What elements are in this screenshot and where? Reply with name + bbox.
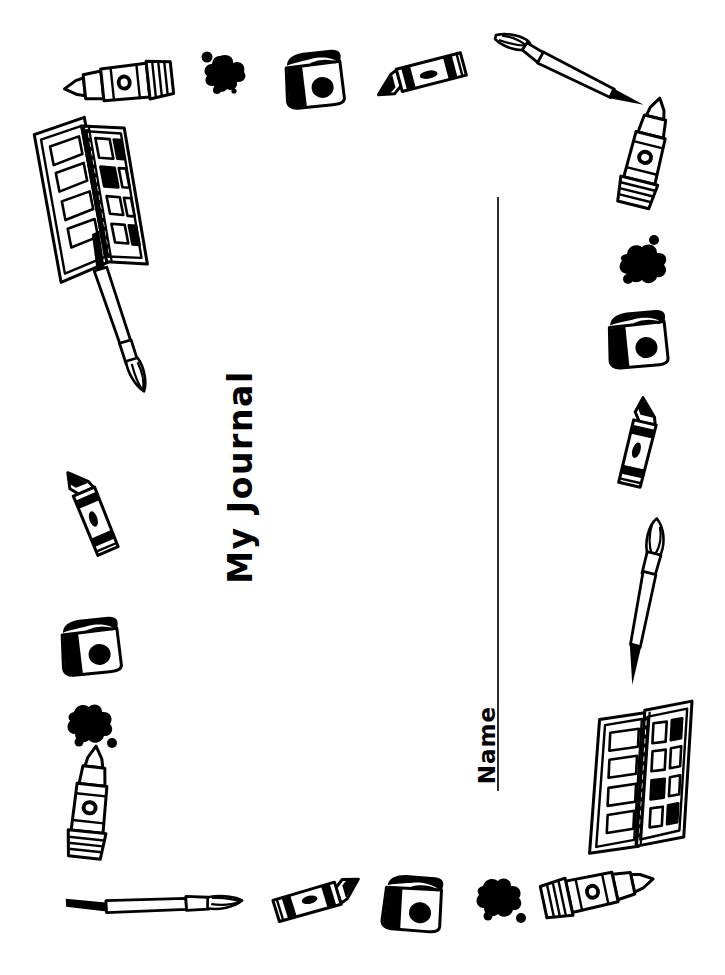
paint-jar-icon	[602, 306, 673, 371]
paint-palette-icon	[571, 680, 707, 869]
paint-splat-icon	[196, 50, 248, 96]
paintbrush-icon	[63, 875, 247, 926]
marker-icon	[531, 854, 662, 925]
paint-jar-icon	[55, 613, 127, 680]
crayon-icon	[602, 390, 672, 494]
paint-splat-icon	[471, 874, 529, 924]
marker-icon	[63, 740, 122, 868]
crayon-icon	[267, 870, 370, 931]
paintbrush-icon	[615, 512, 681, 692]
page-title: My Journal	[221, 370, 260, 584]
name-field-label: Name	[474, 706, 500, 784]
paint-jar-icon	[376, 869, 450, 938]
paint-jar-icon	[279, 46, 349, 112]
paintbrush-icon	[62, 225, 181, 400]
marker-icon	[58, 52, 182, 110]
paint-palette-icon	[18, 105, 154, 297]
name-signature-line[interactable]	[497, 197, 499, 791]
crayon-icon	[54, 460, 124, 564]
paintbrush-icon	[482, 24, 657, 113]
journal-cover-page: My Journal Name	[0, 0, 725, 975]
marker-icon	[611, 89, 685, 219]
crayon-icon	[369, 48, 473, 106]
paint-splat-icon	[62, 700, 120, 750]
paint-splat-icon	[614, 234, 672, 286]
